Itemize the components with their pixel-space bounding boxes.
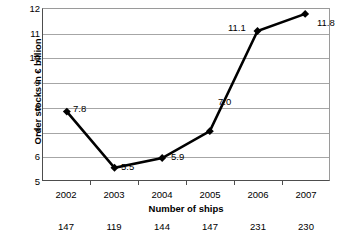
line-chart: Order stocks in € billion 12 11 10 9 8 7… [0, 0, 339, 239]
y-tick-11: 11 [20, 29, 40, 39]
ship-count-2005: 147 [186, 220, 234, 234]
series-markers [63, 10, 309, 172]
plot-area: 7.8 5.5 5.9 7.0 11.1 11.8 [42, 8, 330, 181]
data-point-2007 [301, 10, 309, 18]
x-tick-5 [282, 181, 283, 185]
series-line [43, 9, 329, 180]
y-tick-7: 7 [20, 128, 40, 138]
data-point-2006 [254, 27, 262, 35]
y-tick-9: 9 [20, 78, 40, 88]
x-axis-title: Number of ships [42, 202, 330, 216]
x-tick-1 [90, 181, 91, 185]
point-label-2007: 11.8 [317, 18, 335, 28]
ship-count-2003: 119 [90, 220, 138, 234]
x-tick-3 [186, 181, 187, 185]
x-tick-4 [234, 181, 235, 185]
point-label-2006: 11.1 [228, 23, 246, 33]
x-axis-category-labels: 2002 2003 2004 2005 2006 2007 [42, 188, 330, 202]
x-label-2004: 2004 [138, 188, 186, 202]
ship-count-2004: 144 [138, 220, 186, 234]
ship-count-row: 147 119 144 147 231 230 [42, 220, 330, 234]
y-axis-tick-labels: 12 11 10 9 8 7 6 5 [18, 0, 40, 239]
y-tick-10: 10 [20, 53, 40, 63]
y-tick-12: 12 [20, 4, 40, 14]
ship-count-2006: 231 [234, 220, 282, 234]
point-label-2004: 5.9 [171, 152, 184, 162]
x-tick-2 [138, 181, 139, 185]
x-label-2007: 2007 [282, 188, 330, 202]
y-tick-8: 8 [20, 103, 40, 113]
y-tick-5: 5 [20, 177, 40, 187]
x-label-2006: 2006 [234, 188, 282, 202]
ship-count-2002: 147 [42, 220, 90, 234]
x-axis-ticks [42, 181, 330, 186]
point-label-2002: 7.8 [73, 104, 86, 114]
series-polyline [67, 14, 305, 168]
x-label-2005: 2005 [186, 188, 234, 202]
y-tick-6: 6 [20, 152, 40, 162]
x-label-2003: 2003 [90, 188, 138, 202]
point-label-2003: 5.5 [121, 162, 134, 172]
ship-count-2007: 230 [282, 220, 330, 234]
point-label-2005: 7.0 [218, 97, 231, 107]
x-label-2002: 2002 [42, 188, 90, 202]
